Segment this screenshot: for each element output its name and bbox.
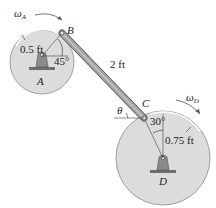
omega-d-label: ωD: [186, 91, 199, 105]
radius-a-label: 0.5 ft: [20, 43, 43, 55]
angle-d-label: 30°: [150, 115, 165, 127]
theta-label: θ: [117, 104, 123, 116]
theta-arc: [126, 113, 128, 118]
linkage-diagram: ωA B 0.5 ft 45° A 2 ft θ C ωD 30° 0.75 f…: [0, 0, 216, 208]
angle-a-label: 45°: [54, 55, 69, 67]
disk-a-label: A: [36, 75, 44, 87]
omega-a-arrowhead-icon: [57, 16, 62, 20]
point-c-label: C: [142, 97, 150, 109]
pin-b-icon: [60, 31, 64, 35]
omega-a-label: ωA: [14, 7, 27, 21]
point-b-label: B: [67, 24, 74, 36]
radius-d-label: 0.75 ft: [165, 134, 194, 146]
disk-d-label: D: [158, 175, 167, 187]
rod-bc: [61, 32, 144, 118]
rod-length-label: 2 ft: [110, 58, 125, 70]
